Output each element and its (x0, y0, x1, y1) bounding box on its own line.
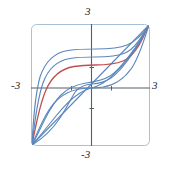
graph-figure: 3 -3 3 -3 (0, 0, 171, 169)
axis-label-bottom: -3 (81, 149, 90, 160)
axis-label-top: 3 (85, 6, 91, 17)
axis-label-right: 3 (152, 80, 158, 91)
axis-label-left: -3 (11, 80, 20, 91)
plot-canvas (0, 0, 171, 169)
